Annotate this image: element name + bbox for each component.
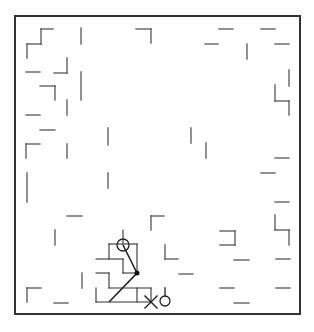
maze-border — [15, 16, 300, 314]
game-stage — [0, 0, 314, 332]
path-waypoint-dot — [135, 271, 140, 276]
maze-board[interactable] — [0, 0, 314, 332]
